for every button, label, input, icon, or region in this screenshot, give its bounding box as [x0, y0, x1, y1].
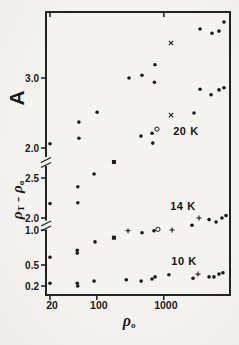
data-point-dot [95, 111, 99, 115]
data-point-dot [217, 88, 221, 92]
y-axis-label-bottom: ρT - ρo [9, 181, 26, 219]
data-point-dot [75, 251, 79, 255]
data-point-dot [212, 275, 216, 279]
data-point-dot [140, 73, 144, 77]
y-tick-label: 2.5 [25, 173, 39, 184]
data-point-dot [224, 214, 228, 218]
y-tick-label: 1.0 [25, 225, 39, 236]
data-point-dot [214, 220, 218, 224]
data-point-dot [209, 93, 213, 97]
data-point-dot [93, 240, 97, 244]
data-point-dot [222, 86, 226, 90]
data-point-dot [210, 31, 214, 35]
data-point-dot [76, 185, 80, 189]
x-tick-label: 1000 [154, 299, 178, 311]
data-point-dot [151, 141, 155, 145]
data-point-square [112, 160, 116, 164]
data-point-dot [207, 218, 211, 222]
data-point-open-circle [156, 227, 160, 231]
data-point-dot [153, 80, 157, 84]
y-tick-label: 0.2 [25, 281, 39, 292]
data-point-dot [198, 27, 202, 31]
data-point-dot [167, 273, 171, 277]
data-point-dot [152, 229, 156, 233]
data-point-dot [48, 281, 52, 285]
data-point-dot [192, 111, 196, 115]
data-point-dot [217, 272, 221, 276]
data-point-dot [198, 87, 202, 91]
rho-0-symbol: ρ [9, 185, 25, 193]
data-point-dot [77, 120, 81, 124]
data-point-dot [153, 275, 157, 279]
data-point-square [112, 236, 116, 240]
data-point-dot [92, 172, 96, 176]
rho-0-symbol: ρ [123, 312, 131, 329]
y-axis-label-top: A [5, 90, 29, 105]
temperature-label-14K: 14 K [170, 200, 196, 212]
data-point-dot [76, 284, 80, 288]
y-tick-label: 2.0 [25, 213, 39, 224]
data-point-dot [77, 136, 81, 140]
x-axis-label: ρo [123, 312, 136, 330]
data-point-dot [222, 20, 226, 24]
data-point-dot [92, 279, 96, 283]
temperature-label-10K: 10 K [171, 255, 197, 267]
data-point-dot [191, 277, 195, 281]
y-tick-label: 2.0 [25, 143, 39, 154]
data-point-dot [190, 223, 194, 227]
y-tick-label: 3.0 [25, 73, 39, 84]
data-point-dot [217, 29, 221, 33]
data-point-dot [221, 271, 225, 275]
rho-T-symbol: ρ [9, 212, 25, 220]
y-tick-label: 0.5 [25, 260, 39, 271]
data-point-dot [127, 76, 131, 80]
x-tick-label: 100 [90, 299, 108, 311]
data-point-dot [153, 63, 157, 67]
data-point-dot [139, 279, 143, 283]
data-point-dot [207, 275, 211, 279]
scanned-figure: 3.02.02.52.01.00.50.2201001000 A ρT - ρo… [0, 0, 239, 345]
minus-sign: - [9, 193, 25, 206]
plot-frame [46, 12, 230, 295]
data-point-dot [220, 216, 224, 220]
data-point-dot [48, 255, 52, 259]
data-point-dot [150, 277, 154, 281]
data-point-dot [140, 231, 144, 235]
data-point-dot [139, 134, 143, 138]
data-point-dot [48, 142, 52, 146]
data-point-open-circle [155, 127, 159, 131]
data-point-dot [76, 201, 80, 205]
data-point-dot [124, 278, 128, 282]
plot-canvas: 3.02.02.52.01.00.50.2201001000 [0, 0, 239, 345]
temperature-label-20K: 20 K [173, 125, 199, 137]
data-point-dot [150, 132, 154, 136]
x-tick-label: 20 [46, 299, 58, 311]
data-point-dot [48, 202, 52, 206]
